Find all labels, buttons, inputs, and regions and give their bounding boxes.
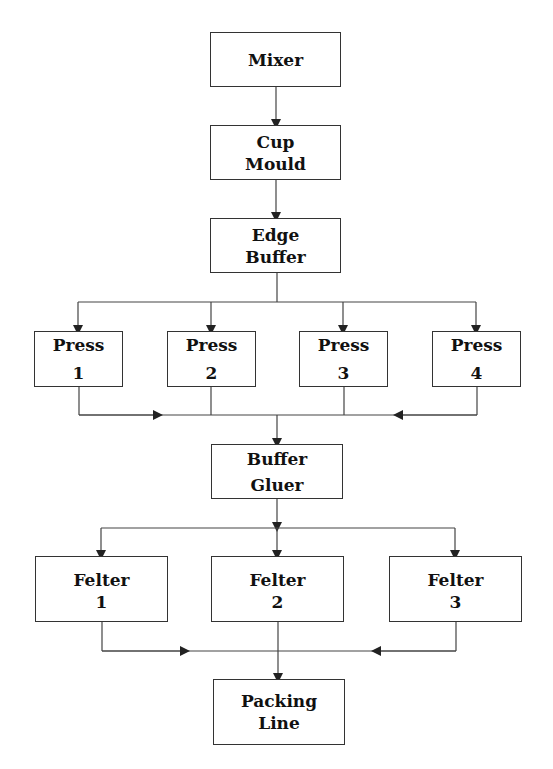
node-label: Felter bbox=[249, 569, 305, 591]
node-label: Packing bbox=[241, 690, 317, 712]
node-press-1: Press 1 bbox=[34, 331, 123, 387]
node-felter-1: Felter 1 bbox=[35, 556, 168, 622]
node-label: 1 bbox=[96, 591, 108, 613]
node-label: Buffer bbox=[245, 246, 305, 268]
node-label: Mould bbox=[245, 153, 306, 175]
node-label: Edge bbox=[252, 224, 300, 246]
node-press-4: Press 4 bbox=[432, 331, 521, 387]
node-label: 2 bbox=[272, 591, 284, 613]
node-label: Felter bbox=[427, 569, 483, 591]
node-label: 1 bbox=[73, 359, 85, 387]
node-label: Felter bbox=[73, 569, 129, 591]
node-felter-3: Felter 3 bbox=[389, 556, 522, 622]
node-label: 4 bbox=[471, 359, 483, 387]
node-label: 3 bbox=[450, 591, 462, 613]
node-mixer: Mixer bbox=[210, 32, 341, 87]
node-cup-mould: Cup Mould bbox=[210, 125, 341, 180]
node-label: 2 bbox=[206, 359, 218, 387]
node-label: Press bbox=[318, 331, 370, 359]
node-label: Press bbox=[186, 331, 238, 359]
node-label: Mixer bbox=[248, 49, 303, 71]
node-label: Buffer bbox=[247, 446, 307, 472]
node-felter-2: Felter 2 bbox=[211, 556, 344, 622]
node-label: Press bbox=[451, 331, 503, 359]
node-label: Line bbox=[258, 712, 300, 734]
node-edge-buffer: Edge Buffer bbox=[210, 218, 341, 273]
node-label: Gluer bbox=[250, 472, 303, 498]
node-label: 3 bbox=[338, 359, 350, 387]
node-buffer-gluer: Buffer Gluer bbox=[211, 444, 343, 499]
node-label: Cup bbox=[257, 131, 295, 153]
node-press-3: Press 3 bbox=[299, 331, 388, 387]
node-label: Press bbox=[53, 331, 105, 359]
node-packing-line: Packing Line bbox=[213, 679, 345, 745]
node-press-2: Press 2 bbox=[167, 331, 256, 387]
